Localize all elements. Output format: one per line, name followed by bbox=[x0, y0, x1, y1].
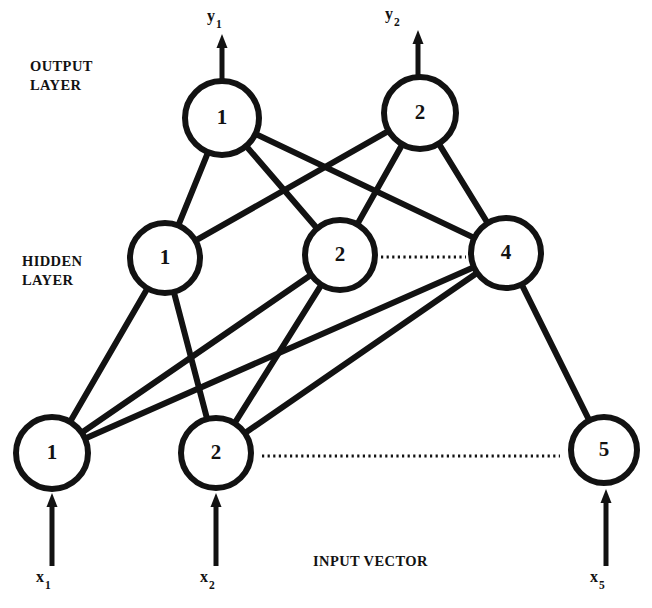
output-layer-node-label: 1 bbox=[217, 105, 228, 129]
output-y2-arrow-head bbox=[413, 30, 424, 44]
input-variable-x2-subscript: 2 bbox=[209, 579, 215, 591]
input-layer-node[interactable]: 5 bbox=[571, 417, 637, 483]
hidden-layer-label: HIDDEN LAYER bbox=[22, 252, 82, 289]
input-x5-arrow-head bbox=[601, 489, 612, 503]
output-layer-node-label: 2 bbox=[415, 100, 426, 124]
connection-edge bbox=[521, 283, 590, 421]
input-variable-x1-label: x1 bbox=[36, 568, 50, 588]
output-layer-node[interactable]: 1 bbox=[185, 81, 259, 155]
input-layer-node[interactable]: 1 bbox=[16, 417, 88, 489]
connection-edge bbox=[178, 151, 209, 226]
output-variable-y1-base: y bbox=[207, 7, 215, 24]
input-vector-label: INPUT VECTOR bbox=[313, 552, 428, 571]
input-variable-x5-subscript: 5 bbox=[599, 579, 605, 591]
input-x1-arrow-head bbox=[47, 493, 58, 507]
input-layer-node-label: 2 bbox=[211, 440, 222, 464]
input-x5-arrow bbox=[601, 489, 612, 566]
input-x2-arrow-head bbox=[211, 493, 222, 507]
input-layer-node-label: 5 bbox=[599, 437, 610, 461]
output-layer-label: OUTPUT LAYER bbox=[30, 57, 93, 94]
input-variable-x2-base: x bbox=[200, 568, 208, 585]
input-x2-arrow bbox=[211, 493, 222, 566]
input-variable-x1-base: x bbox=[36, 568, 44, 585]
output-variable-y1-subscript: 1 bbox=[216, 18, 222, 30]
output-y1-arrow-head bbox=[217, 34, 228, 48]
input-variable-x5-base: x bbox=[590, 568, 598, 585]
output-variable-y2-label: y2 bbox=[385, 5, 399, 25]
input-layer-node[interactable]: 2 bbox=[181, 418, 251, 488]
hidden-layer-node-label: 2 bbox=[335, 242, 346, 266]
neural-network-diagram: 12124125 OUTPUT LAYER HIDDEN LAYER INPUT… bbox=[0, 0, 652, 608]
output-y2-arrow bbox=[413, 30, 424, 77]
input-x1-arrow bbox=[47, 493, 58, 566]
input-variable-x5-label: x5 bbox=[590, 568, 604, 588]
hidden-layer-node[interactable]: 2 bbox=[305, 220, 375, 290]
output-layer-node[interactable]: 2 bbox=[384, 77, 456, 149]
hidden-layer-node-label: 4 bbox=[501, 240, 512, 264]
output-variable-y2-base: y bbox=[385, 5, 393, 22]
output-y1-arrow bbox=[217, 34, 228, 81]
input-variable-x2-label: x2 bbox=[200, 568, 214, 588]
hidden-layer-node[interactable]: 1 bbox=[130, 223, 200, 293]
input-variable-x1-subscript: 1 bbox=[45, 579, 51, 591]
output-variable-y1-label: y1 bbox=[207, 7, 221, 27]
network-canvas: 12124125 bbox=[0, 0, 652, 608]
connection-edge bbox=[70, 287, 148, 422]
input-layer-node-label: 1 bbox=[47, 440, 58, 464]
hidden-layer-node-label: 1 bbox=[160, 245, 171, 269]
hidden-layer-node[interactable]: 4 bbox=[471, 218, 541, 288]
connection-edge bbox=[438, 143, 488, 224]
output-variable-y2-subscript: 2 bbox=[394, 16, 400, 28]
